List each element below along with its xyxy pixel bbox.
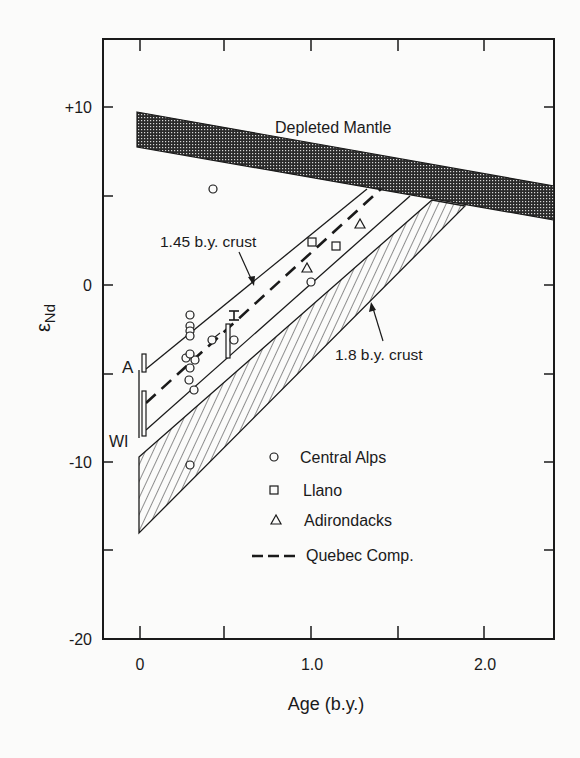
y-axis-label: εNd <box>32 304 58 332</box>
x-tick-label-2: 2.0 <box>474 656 496 673</box>
data-point-circle <box>186 350 194 358</box>
data-point-circle <box>208 336 216 344</box>
y-ticks-right <box>544 107 554 550</box>
svg-text:εNd: εNd <box>32 304 58 332</box>
data-point-square <box>332 242 340 250</box>
crust-145-upper-line <box>146 189 367 369</box>
chart-canvas: +10 0 -10 -20 0 1.0 2.0 Age (b.y.) εNd D… <box>0 0 580 758</box>
y-tick-label-minus20: -20 <box>69 631 92 648</box>
data-point-circle <box>209 185 217 193</box>
data-point-circle <box>186 461 194 469</box>
legend-central-alps: Central Alps <box>300 449 386 466</box>
depleted-mantle-label: Depleted Mantle <box>275 119 392 136</box>
bar-mid <box>226 324 230 358</box>
data-point-triangle <box>302 263 312 272</box>
legend-circle-icon <box>270 453 278 461</box>
x-ticks-bottom <box>140 626 484 639</box>
bar-a <box>142 354 146 372</box>
crust-145-lower-line <box>146 196 410 430</box>
data-point-circle <box>307 278 315 286</box>
crust-145-label: 1.45 b.y. crust <box>160 233 257 250</box>
y-axis-label-epsilon: ε <box>32 323 54 332</box>
data-point-circle <box>186 311 194 319</box>
legend-triangle-icon <box>271 515 281 524</box>
y-ticks-left <box>103 107 113 550</box>
data-point-circle <box>185 376 193 384</box>
legend-adirondacks: Adirondacks <box>304 512 392 529</box>
legend-quebec-comp: Quebec Comp. <box>306 547 414 564</box>
legend-square-icon <box>270 486 278 494</box>
error-bar-icon <box>229 311 239 320</box>
data-point-triangle <box>355 219 365 228</box>
y-axis-label-sub: Nd <box>41 304 58 323</box>
bar-wi <box>142 391 146 436</box>
data-point-circle <box>190 386 198 394</box>
y-tick-label-minus10: -10 <box>69 454 92 471</box>
x-tick-label-1: 1.0 <box>301 656 323 673</box>
data-point-circle <box>186 364 194 372</box>
legend-llano: Llano <box>303 482 342 499</box>
legend: Central Alps Llano Adirondacks Quebec Co… <box>252 449 414 564</box>
x-ticks-top <box>140 39 484 51</box>
x-axis-label: Age (b.y.) <box>288 694 365 714</box>
y-tick-label-plus10: +10 <box>65 99 92 116</box>
crust-18-label: 1.8 b.y. crust <box>335 346 423 363</box>
data-point-circle <box>186 332 194 340</box>
x-tick-label-0: 0 <box>136 656 145 673</box>
connector-tick <box>215 333 220 337</box>
crust-18-arrowhead-icon <box>369 302 376 312</box>
data-point-circle <box>230 336 238 344</box>
data-point-square <box>308 238 316 246</box>
marker-a-label: A <box>122 358 134 377</box>
y-tick-label-0: 0 <box>83 277 92 294</box>
marker-wi-label: WI <box>109 433 129 450</box>
